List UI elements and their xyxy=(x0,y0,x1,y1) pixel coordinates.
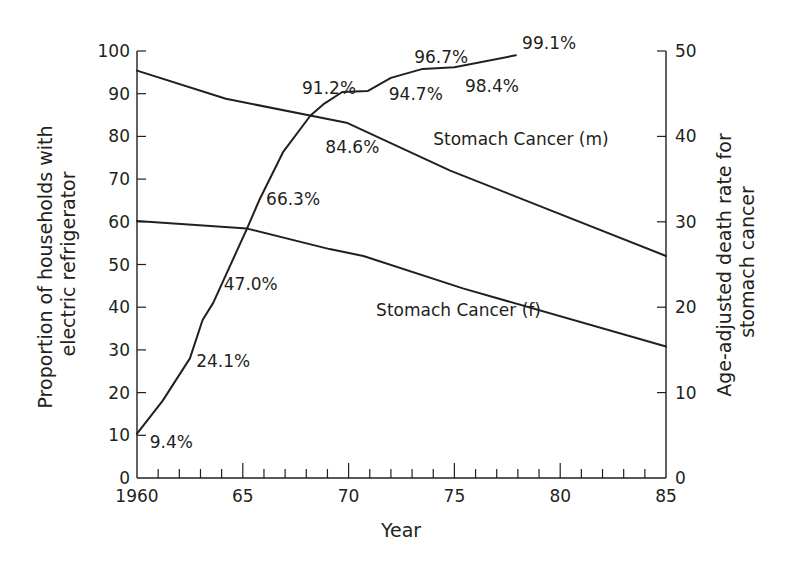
refrigerator-line xyxy=(137,55,516,433)
right-axis-title-line-1: Age-adjusted death rate for xyxy=(713,133,735,397)
left-tick-label: 30 xyxy=(108,340,130,360)
right-tick-label: 10 xyxy=(675,383,697,403)
right-axis-title: Age-adjusted death rate for stomach canc… xyxy=(713,127,758,397)
data-label: 96.7% xyxy=(414,47,468,67)
data-label: 91.2% xyxy=(302,78,356,98)
series-label: Stomach Cancer (m) xyxy=(433,129,608,149)
x-tick-label: 65 xyxy=(232,486,254,506)
data-label: 9.4% xyxy=(150,432,193,452)
right-tick-label: 0 xyxy=(675,468,686,488)
x-tick-label: 70 xyxy=(338,486,360,506)
series-label: Stomach Cancer (f) xyxy=(376,300,541,320)
left-axis-title-line-2: electric refrigerator xyxy=(57,171,79,356)
data-label: 47.0% xyxy=(224,274,278,294)
right-tick-label: 30 xyxy=(675,212,697,232)
left-tick-label: 0 xyxy=(119,468,130,488)
left-tick-label: 80 xyxy=(108,126,130,146)
chart: 0102030405060708090100010203040501960657… xyxy=(0,0,800,562)
x-tick-label: 1960 xyxy=(115,486,158,506)
data-label: 99.1% xyxy=(522,33,576,53)
data-label: 84.6% xyxy=(325,137,379,157)
series-layer xyxy=(137,55,666,433)
left-tick-label: 10 xyxy=(108,425,130,445)
x-tick-label: 80 xyxy=(549,486,571,506)
left-tick-label: 40 xyxy=(108,297,130,317)
right-tick-label: 40 xyxy=(675,126,697,146)
left-tick-label: 20 xyxy=(108,383,130,403)
left-tick-label: 90 xyxy=(108,84,130,104)
left-tick-label: 100 xyxy=(98,41,130,61)
right-tick-label: 50 xyxy=(675,41,697,61)
left-axis-title-line-1: Proportion of households with xyxy=(34,126,56,409)
data-label: 94.7% xyxy=(389,84,443,104)
data-label: 66.3% xyxy=(266,189,320,209)
data-label: 24.1% xyxy=(196,351,250,371)
x-tick-label: 85 xyxy=(655,486,677,506)
x-axis-title: Year xyxy=(380,519,421,541)
right-tick-label: 20 xyxy=(675,297,697,317)
left-axis-title: Proportion of households with electric r… xyxy=(34,119,79,408)
data-label: 98.4% xyxy=(465,76,519,96)
x-tick-label: 75 xyxy=(444,486,466,506)
left-tick-label: 60 xyxy=(108,212,130,232)
left-tick-label: 50 xyxy=(108,255,130,275)
right-axis-title-line-2: stomach cancer xyxy=(736,186,758,338)
left-tick-label: 70 xyxy=(108,169,130,189)
stomach-cancer-f-line xyxy=(137,221,666,347)
